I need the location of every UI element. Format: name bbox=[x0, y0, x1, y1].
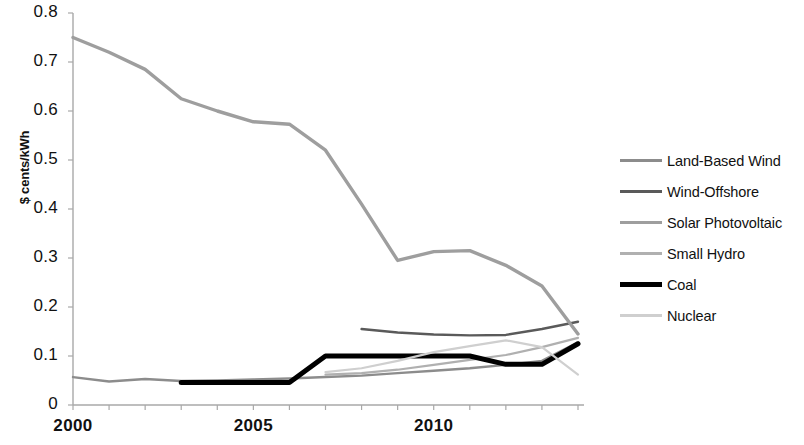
y-axis-tick: 0.6 bbox=[12, 100, 58, 120]
legend-item-label: Small Hydro bbox=[667, 246, 745, 262]
y-axis-tick: 0.2 bbox=[12, 296, 58, 316]
legend-color-swatch bbox=[620, 282, 662, 287]
x-axis-tick: 2005 bbox=[218, 416, 288, 436]
legend-item[interactable]: Solar Photovoltaic bbox=[620, 207, 804, 238]
y-axis-tick: 0.8 bbox=[12, 2, 58, 22]
legend-item-label: Coal bbox=[667, 277, 696, 293]
y-axis-tick: 0.4 bbox=[12, 198, 58, 218]
y-axis-tick-labels: 0.80.70.60.50.40.30.20.10 bbox=[8, 0, 58, 445]
series-line bbox=[73, 38, 578, 334]
legend-item-label: Land-Based Wind bbox=[667, 153, 781, 169]
y-axis-tick: 0 bbox=[12, 394, 58, 414]
y-axis-tick: 0.3 bbox=[12, 247, 58, 267]
legend-item-label: Solar Photovoltaic bbox=[667, 215, 782, 231]
series-line bbox=[181, 344, 578, 383]
legend-color-swatch bbox=[620, 252, 662, 254]
y-axis-tick: 0.5 bbox=[12, 149, 58, 169]
x-axis-tick: 2010 bbox=[399, 416, 469, 436]
legend-color-swatch bbox=[620, 221, 662, 224]
legend-item[interactable]: Land-Based Wind bbox=[620, 145, 804, 176]
legend-item-label: Wind-Offshore bbox=[667, 184, 759, 200]
legend-item-label: Nuclear bbox=[667, 308, 716, 324]
chart-container: $ cents/kWh 0.80.70.60.50.40.30.20.10 20… bbox=[0, 0, 804, 445]
legend-color-swatch bbox=[620, 159, 662, 161]
x-axis-tick: 2000 bbox=[38, 416, 108, 436]
legend-item[interactable]: Coal bbox=[620, 269, 804, 300]
legend-color-swatch bbox=[620, 190, 662, 192]
legend-item[interactable]: Wind-Offshore bbox=[620, 176, 804, 207]
chart-legend: Land-Based WindWind-OffshoreSolar Photov… bbox=[620, 145, 804, 331]
legend-item[interactable]: Nuclear bbox=[620, 300, 804, 331]
y-axis-tick: 0.1 bbox=[12, 345, 58, 365]
series-line bbox=[362, 322, 578, 336]
legend-color-swatch bbox=[620, 314, 662, 316]
legend-item[interactable]: Small Hydro bbox=[620, 238, 804, 269]
y-axis-tick: 0.7 bbox=[12, 51, 58, 71]
